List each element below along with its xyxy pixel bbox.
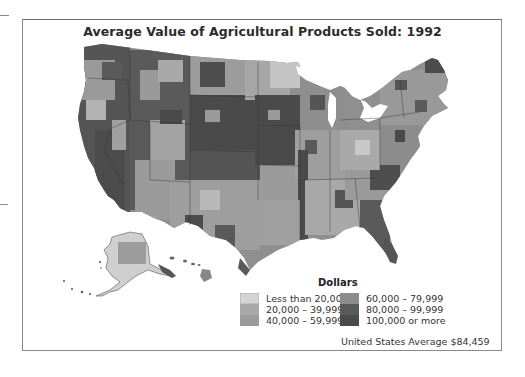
legend-item-80000-99999: 80,000 – 99,999 xyxy=(340,304,443,315)
legend-label: 20,000 – 39,999 xyxy=(266,304,343,315)
legend-label: 80,000 – 99,999 xyxy=(366,304,443,315)
legend-title: Dollars xyxy=(318,277,358,288)
legend-item-40000-59999: 40,000 – 59,999 xyxy=(240,315,343,326)
legend-label: 60,000 – 79,999 xyxy=(366,293,443,304)
legend-item-less-than-20000: Less than 20,000 xyxy=(240,293,348,304)
legend-swatch xyxy=(240,315,259,326)
legend-swatch xyxy=(240,293,259,304)
legend-swatch xyxy=(340,315,359,326)
legend-item-100000-or-more: 100,000 or more xyxy=(340,315,446,326)
legend-swatch xyxy=(240,304,259,315)
legend-swatch xyxy=(340,293,359,304)
us-average-note: United States Average $84,459 xyxy=(341,336,490,347)
legend-item-60000-79999: 60,000 – 79,999 xyxy=(340,293,443,304)
legend-label: Less than 20,000 xyxy=(266,293,348,304)
legend-swatch xyxy=(340,304,359,315)
legend-label: 40,000 – 59,999 xyxy=(266,315,343,326)
legend-label: 100,000 or more xyxy=(366,315,446,326)
legend-item-20000-39999: 20,000 – 39,999 xyxy=(240,304,343,315)
